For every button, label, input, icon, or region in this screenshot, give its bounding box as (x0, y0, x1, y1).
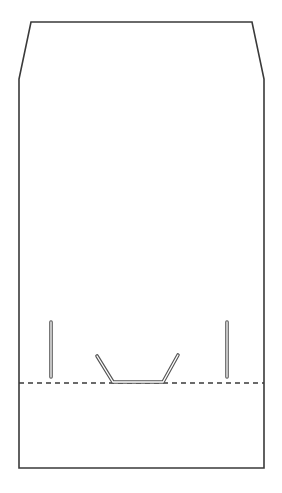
background (0, 0, 282, 493)
envelope-diagram (0, 0, 282, 493)
